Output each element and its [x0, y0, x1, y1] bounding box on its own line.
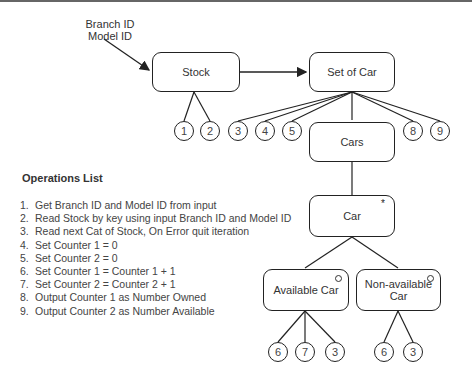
- operation-item: 2.Read Stock by key using input Branch I…: [20, 212, 291, 225]
- op-ref-circle: 3: [403, 342, 423, 362]
- op-ref-circle: 8: [403, 121, 423, 141]
- node-non-available-car[interactable]: Non-available Car: [356, 269, 441, 311]
- operation-item: 4.Set Counter 1 = 0: [20, 239, 291, 252]
- op-ref-circle: 5: [282, 121, 302, 141]
- op-ref-circle: 3: [325, 342, 345, 362]
- op-ref-number: 2: [207, 125, 213, 137]
- input-label: Branch ID Model ID: [80, 18, 140, 42]
- op-ref-circle: 7: [295, 342, 315, 362]
- operation-item: 3.Read next Cat of Stock, On Error quit …: [20, 225, 291, 238]
- node-non-available-car-label-line2: Car: [390, 290, 408, 302]
- op-ref-number: 6: [381, 346, 387, 358]
- operation-number: 7.: [20, 278, 35, 291]
- op-ref-number: 4: [262, 125, 268, 137]
- operation-text: Output Counter 2 as Number Available: [35, 305, 215, 317]
- operation-item: 6.Set Counter 1 = Counter 1 + 1: [20, 265, 291, 278]
- op-ref-number: 3: [235, 125, 241, 137]
- operation-number: 9.: [20, 305, 35, 318]
- op-ref-number: 6: [275, 346, 281, 358]
- operation-text: Read Stock by key using input Branch ID …: [35, 212, 291, 224]
- selection-marker-icon: [427, 275, 434, 282]
- operation-text: Set Counter 1 = 0: [35, 239, 118, 251]
- op-ref-circle: 9: [430, 121, 450, 141]
- op-ref-circle: 2: [200, 121, 220, 141]
- op-ref-circle: 3: [228, 121, 248, 141]
- input-label-branch-id: Branch ID: [80, 18, 140, 30]
- op-ref-circle: 6: [374, 342, 394, 362]
- operation-text: Output Counter 1 as Number Owned: [35, 291, 206, 303]
- operation-number: 2.: [20, 212, 35, 225]
- operation-number: 5.: [20, 252, 35, 265]
- operations-list: 1.Get Branch ID and Model ID from input …: [20, 199, 291, 318]
- op-ref-number: 7: [302, 346, 308, 358]
- operation-number: 1.: [20, 199, 35, 212]
- operation-number: 3.: [20, 225, 35, 238]
- operation-text: Set Counter 2 = Counter 2 + 1: [35, 278, 176, 290]
- op-ref-number: 5: [289, 125, 295, 137]
- input-label-model-id: Model ID: [80, 30, 140, 42]
- node-non-available-car-label: Non-available Car: [365, 278, 432, 302]
- operation-item: 7.Set Counter 2 = Counter 2 + 1: [20, 278, 291, 291]
- operation-number: 6.: [20, 265, 35, 278]
- operation-item: 8.Output Counter 1 as Number Owned: [20, 291, 291, 304]
- operation-text: Set Counter 2 = 0: [35, 252, 118, 264]
- operation-text: Set Counter 1 = Counter 1 + 1: [35, 265, 176, 277]
- op-ref-number: 1: [181, 125, 187, 137]
- node-cars-label: Cars: [340, 136, 363, 148]
- op-ref-circle: 1: [174, 121, 194, 141]
- operation-item: 5.Set Counter 2 = 0: [20, 252, 291, 265]
- node-non-available-car-label-line1: Non-available: [365, 278, 432, 290]
- op-ref-circle: 6: [268, 342, 288, 362]
- node-stock[interactable]: Stock: [152, 52, 240, 92]
- operation-number: 8.: [20, 291, 35, 304]
- op-ref-circle: 4: [255, 121, 275, 141]
- op-ref-number: 9: [437, 125, 443, 137]
- selection-marker-icon: [335, 275, 342, 282]
- operation-item: 9.Output Counter 2 as Number Available: [20, 305, 291, 318]
- op-ref-number: 3: [410, 346, 416, 358]
- node-stock-label: Stock: [182, 66, 210, 78]
- node-set-of-car[interactable]: Set of Car: [309, 52, 395, 92]
- node-car[interactable]: Car *: [309, 195, 395, 237]
- iteration-marker-icon: *: [381, 198, 385, 210]
- op-ref-number: 3: [332, 346, 338, 358]
- node-car-label: Car: [343, 210, 361, 222]
- node-set-of-car-label: Set of Car: [327, 66, 377, 78]
- op-ref-number: 8: [410, 125, 416, 137]
- operation-text: Read next Cat of Stock, On Error quit it…: [35, 225, 249, 237]
- operation-text: Get Branch ID and Model ID from input: [35, 199, 217, 211]
- node-cars[interactable]: Cars: [309, 122, 395, 162]
- operation-item: 1.Get Branch ID and Model ID from input: [20, 199, 291, 212]
- operation-number: 4.: [20, 239, 35, 252]
- operations-list-title: Operations List: [22, 172, 103, 184]
